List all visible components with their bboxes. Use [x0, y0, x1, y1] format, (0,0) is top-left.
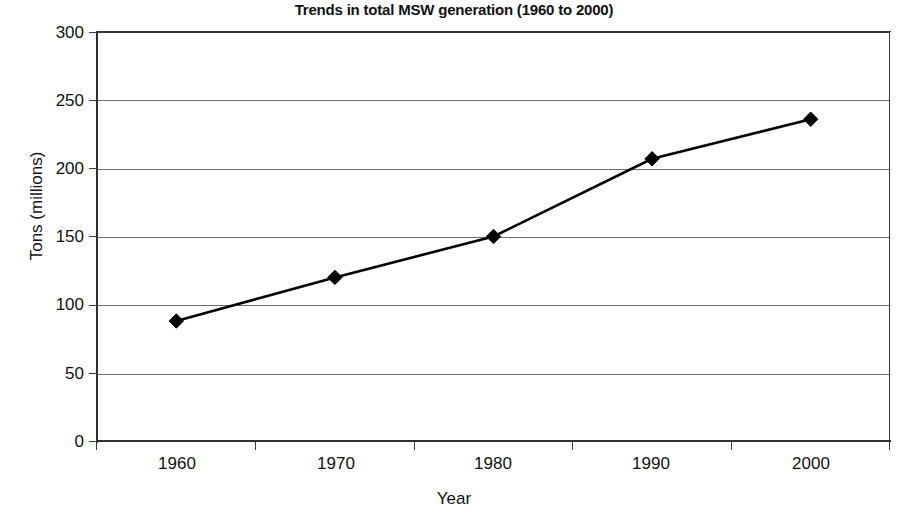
- plot-right-border: [889, 31, 890, 442]
- plot-top-border: [96, 31, 891, 32]
- y-axis-label-50: 50: [22, 365, 84, 382]
- chart-container: Trends in total MSW generation (1960 to …: [0, 0, 908, 532]
- x-axis-tick-1: [255, 441, 256, 450]
- x-axis-label-2000: 2000: [756, 455, 866, 472]
- x-axis-tick-4: [731, 441, 732, 450]
- gridline-150: [98, 237, 889, 238]
- gridline-250: [98, 100, 889, 101]
- x-axis-tick-5: [889, 441, 890, 450]
- y-axis-title: Tons (millions): [27, 86, 47, 326]
- y-axis-label-300: 300: [22, 24, 84, 41]
- gridline-50: [98, 374, 889, 375]
- gridline-200: [98, 169, 889, 170]
- y-axis-label-0: 0: [22, 433, 84, 450]
- x-axis-tick-2: [414, 441, 415, 450]
- x-axis-label-1980: 1980: [438, 455, 548, 472]
- x-axis-label-1960: 1960: [122, 455, 232, 472]
- x-axis-tick-3: [572, 441, 573, 450]
- x-axis-title: Year: [0, 489, 908, 509]
- x-axis-label-1970: 1970: [281, 455, 391, 472]
- gridline-100: [98, 305, 889, 306]
- x-axis-label-1990: 1990: [596, 455, 706, 472]
- x-axis-line: [96, 440, 891, 442]
- x-axis-tick-0: [96, 441, 97, 450]
- plot-area: [97, 32, 890, 441]
- chart-title: Trends in total MSW generation (1960 to …: [0, 1, 908, 18]
- y-axis-line: [96, 31, 98, 443]
